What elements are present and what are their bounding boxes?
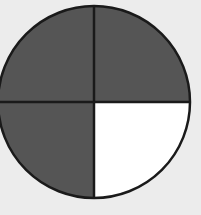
fraction-circle-diagram (0, 0, 201, 215)
quadrant-top-right (94, 0, 201, 102)
